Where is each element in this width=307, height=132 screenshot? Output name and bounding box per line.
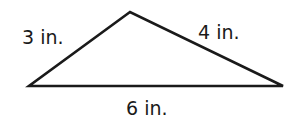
right-side-label: 4 in. — [198, 21, 240, 43]
triangle-diagram: 3 in. 4 in. 6 in. — [0, 0, 307, 132]
triangle-shape — [29, 12, 283, 86]
left-side-label: 3 in. — [22, 26, 64, 48]
base-label: 6 in. — [126, 97, 168, 119]
